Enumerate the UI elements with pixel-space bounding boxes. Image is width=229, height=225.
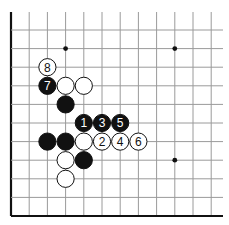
black-stone — [57, 96, 74, 113]
move-number: 2 — [99, 135, 106, 149]
white-stone — [57, 152, 74, 169]
move-number: 8 — [44, 61, 51, 75]
white-stone — [75, 77, 92, 94]
black-stone: 1 — [75, 114, 92, 131]
grid-lines — [11, 12, 223, 216]
go-board: 87135246 — [0, 0, 229, 225]
black-stone-circle — [39, 133, 56, 150]
star-point-icon — [172, 158, 177, 163]
white-stone-circle — [57, 170, 74, 187]
white-stone — [75, 133, 92, 150]
white-stone — [57, 170, 74, 187]
move-number: 7 — [44, 79, 51, 93]
white-stone-circle — [57, 152, 74, 169]
white-stone: 6 — [130, 133, 147, 150]
black-stone-circle — [75, 152, 92, 169]
black-stone: 3 — [93, 114, 110, 131]
move-number: 3 — [99, 116, 106, 130]
white-stone — [57, 77, 74, 94]
black-stone: 5 — [112, 114, 129, 131]
star-point-icon — [63, 46, 68, 51]
white-stone-circle — [75, 77, 92, 94]
white-stone-circle — [57, 77, 74, 94]
black-stone-circle — [57, 96, 74, 113]
black-stone-circle — [57, 133, 74, 150]
move-number: 5 — [117, 116, 124, 130]
move-number: 1 — [80, 116, 87, 130]
white-stone: 2 — [93, 133, 110, 150]
black-stone — [57, 133, 74, 150]
white-stone: 8 — [39, 59, 56, 76]
move-number: 4 — [117, 135, 124, 149]
star-point-icon — [172, 46, 177, 51]
white-stone-circle — [75, 133, 92, 150]
move-number: 6 — [135, 135, 142, 149]
black-stone: 7 — [39, 77, 56, 94]
white-stone: 4 — [112, 133, 129, 150]
black-stone — [39, 133, 56, 150]
black-stone — [75, 152, 92, 169]
